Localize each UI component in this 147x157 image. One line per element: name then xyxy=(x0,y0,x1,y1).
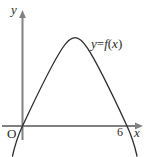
parabola-figure: y x O 6 y=f(x) xyxy=(0,0,147,157)
x-axis-label: x xyxy=(134,126,140,139)
plot-area xyxy=(0,0,147,157)
origin-label: O xyxy=(7,127,16,140)
y-axis-label: y xyxy=(11,3,17,16)
y-axis-arrow-icon xyxy=(19,10,26,18)
curve-equation-label: y=f(x) xyxy=(91,37,122,50)
x-tick-label-6: 6 xyxy=(117,126,123,138)
curve-eq-close-paren: ) xyxy=(118,36,122,51)
